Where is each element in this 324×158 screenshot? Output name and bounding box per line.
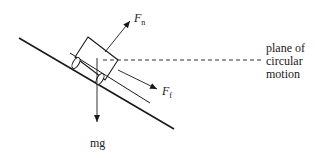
plane-label-line3: motion	[266, 67, 300, 81]
weight-label: mg	[90, 136, 105, 150]
axle-line	[70, 53, 150, 103]
rear-wheel	[70, 56, 81, 69]
normal-force-arrow	[105, 21, 130, 52]
banked-curve-diagram: Fn Ff mg plane of circular motion	[0, 0, 324, 158]
plane-label-line1: plane of	[266, 41, 305, 55]
normal-force-label: Fn	[133, 11, 145, 27]
plane-label-line2: circular	[266, 54, 303, 68]
friction-force-label: Ff	[161, 84, 172, 100]
